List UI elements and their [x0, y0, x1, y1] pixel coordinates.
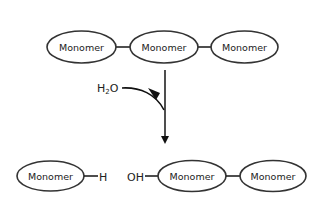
curved-arrow [122, 88, 164, 110]
monomer-label: Monomer [59, 42, 104, 53]
water-label: H2O [97, 82, 119, 97]
water-reagent: H2O [97, 82, 164, 111]
monomer-label: Monomer [170, 171, 215, 182]
product-left-fragment: Monomer H [17, 161, 107, 191]
monomer-bottom-1: Monomer [17, 161, 84, 191]
top-polymer-chain: Monomer Monomer Monomer [47, 31, 278, 63]
monomer-top-2: Monomer [130, 31, 198, 63]
product-right-fragment: OH Monomer Monomer [127, 161, 306, 192]
monomer-top-1: Monomer [47, 31, 116, 63]
monomer-label: Monomer [222, 42, 267, 53]
hydroxyl-start-group: OH [127, 171, 144, 184]
monomer-label: Monomer [28, 171, 73, 182]
monomer-bottom-2: Monomer [158, 161, 226, 192]
hydrolysis-diagram: Monomer Monomer Monomer H2O Monomer H OH… [0, 0, 319, 206]
monomer-bottom-3: Monomer [240, 161, 306, 192]
monomer-top-3: Monomer [211, 31, 278, 63]
monomer-label: Monomer [251, 171, 296, 182]
hydrogen-end-group: H [99, 171, 107, 184]
monomer-label: Monomer [142, 42, 187, 53]
